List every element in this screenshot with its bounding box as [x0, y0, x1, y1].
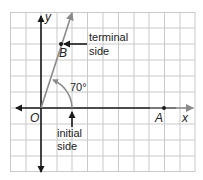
terminal-side-label-line1: terminal	[89, 31, 128, 43]
y-axis-label: y	[44, 10, 52, 24]
point-a	[162, 106, 166, 110]
initial-side-label-line2: side	[57, 140, 77, 152]
point-a-label: A	[154, 111, 163, 125]
initial-side-label-line1: initial	[57, 127, 82, 139]
terminal-side-label-line2: side	[89, 45, 109, 57]
origin-label: O	[30, 111, 39, 125]
angle-measure-label: 70°	[70, 81, 87, 93]
angle-diagram: y x O A B 70° terminal side initial side	[0, 0, 203, 180]
x-axis-label: x	[181, 111, 189, 125]
point-b-label: B	[59, 46, 67, 60]
